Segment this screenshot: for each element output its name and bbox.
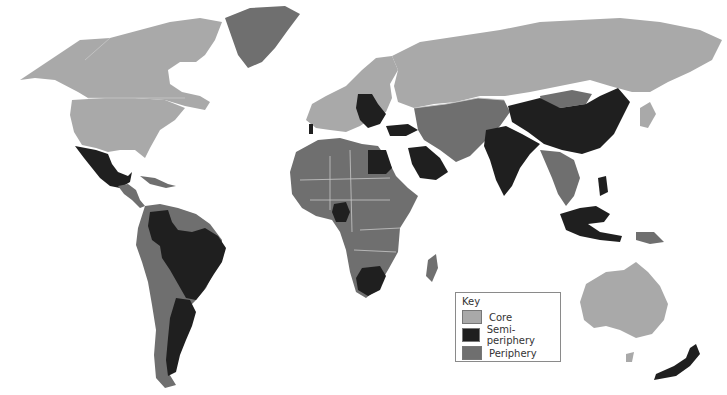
legend-label-periphery: Periphery xyxy=(489,348,537,359)
map-legend: Key Core Semi-periphery Periphery xyxy=(455,292,561,362)
region-canada-alaska xyxy=(20,18,222,110)
region-central-america xyxy=(118,184,145,208)
legend-swatch-semi-periphery xyxy=(462,328,480,342)
region-southeast-asia xyxy=(540,150,580,206)
region-philippines xyxy=(598,176,608,196)
region-south-africa xyxy=(356,266,386,296)
region-portugal xyxy=(309,124,313,134)
world-map xyxy=(0,0,727,395)
region-indonesia xyxy=(560,206,622,242)
region-greenland xyxy=(225,6,300,68)
region-africa xyxy=(290,138,418,298)
region-japan xyxy=(640,102,656,128)
region-new-zealand xyxy=(654,344,700,380)
region-madagascar xyxy=(426,254,438,282)
region-tasmania xyxy=(626,352,634,362)
region-europe xyxy=(306,56,398,132)
legend-swatch-periphery xyxy=(462,346,482,360)
legend-swatch-core xyxy=(462,310,482,324)
region-caribbean xyxy=(140,176,176,188)
region-turkey xyxy=(386,124,418,136)
legend-label-semi-periphery: Semi-periphery xyxy=(487,324,554,346)
region-india xyxy=(484,126,540,196)
region-mexico xyxy=(75,146,132,188)
region-papua-new-guinea xyxy=(636,232,664,244)
legend-label-core: Core xyxy=(489,312,512,323)
legend-item-periphery: Periphery xyxy=(462,344,554,362)
region-egypt xyxy=(368,150,392,174)
legend-item-semi-periphery: Semi-periphery xyxy=(462,326,554,344)
region-australia xyxy=(580,262,668,338)
legend-title: Key xyxy=(462,296,554,308)
